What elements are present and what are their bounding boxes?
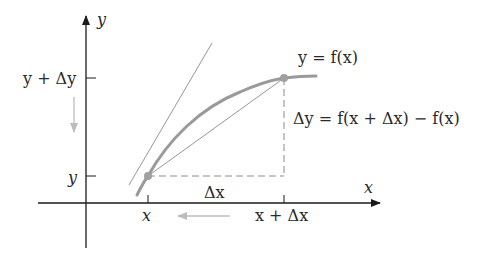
secant-line — [148, 78, 284, 176]
derivative-diagram: y x y + Δy y x x + Δx y = f(x) Δx Δy = f… — [0, 0, 496, 256]
delta-y-label: Δy = f(x + Δx) − f(x) — [293, 109, 460, 128]
x-axis-label: x — [364, 178, 373, 197]
curve-label: y = f(x) — [297, 48, 358, 67]
y-axis-label: y — [96, 10, 107, 29]
point-q — [280, 74, 288, 82]
delta-x-label: Δx — [204, 183, 225, 202]
y-label: y — [67, 168, 78, 187]
point-p — [144, 172, 152, 180]
function-curve — [137, 76, 316, 195]
x-label: x — [142, 206, 151, 225]
y-plus-dy-label: y + Δy — [22, 69, 76, 88]
x-plus-dx-label: x + Δx — [255, 206, 308, 225]
